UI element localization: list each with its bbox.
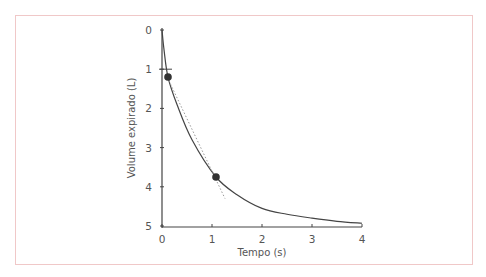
series [162, 30, 362, 223]
axes [162, 28, 362, 228]
y-tick-label: 2 [145, 102, 152, 114]
tangent-line [169, 81, 225, 199]
y-tick-label: 3 [145, 142, 152, 154]
volume-curve [162, 30, 362, 223]
x-tick-label: 4 [359, 233, 366, 245]
y-tick-label: 4 [145, 181, 152, 193]
x-tick-label: 3 [309, 233, 316, 245]
data-point-marker [164, 73, 172, 81]
x-axis-label: Tempo (s) [237, 247, 287, 258]
y-tick-label: 0 [145, 24, 152, 36]
markers [164, 73, 220, 181]
y-tick-label: 5 [145, 220, 152, 232]
volume-time-chart: 01234012345 Tempo (s) Volume expirado (L… [0, 0, 486, 277]
x-tick-label: 1 [209, 233, 216, 245]
y-axis-label: Volume expirado (L) [126, 78, 137, 179]
x-tick-label: 0 [159, 233, 166, 245]
data-point-marker [212, 173, 220, 181]
y-tick-label: 1 [145, 63, 152, 75]
axis-ticks: 01234012345 [145, 24, 365, 245]
x-tick-label: 2 [259, 233, 266, 245]
